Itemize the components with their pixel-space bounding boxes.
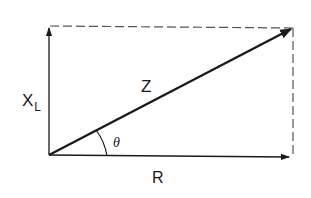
resistance-vector <box>49 155 289 157</box>
angle-arc <box>96 130 107 156</box>
impedance-diagram: XL Z θ R <box>0 0 311 198</box>
dashed-top-edge <box>50 26 293 28</box>
angle-label: θ <box>113 135 120 150</box>
reactance-label: XL <box>22 91 41 114</box>
impedance-label: Z <box>141 77 151 96</box>
resistance-label: R <box>152 169 164 186</box>
impedance-vector <box>49 29 291 155</box>
